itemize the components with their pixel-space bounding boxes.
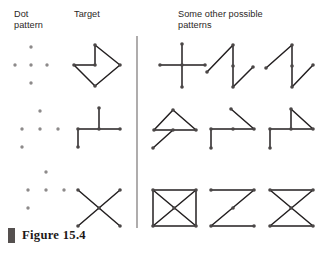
z-shape-pattern xyxy=(209,188,256,228)
boxed-x-pattern-vertex xyxy=(151,188,155,192)
z-shape-pattern-vertex xyxy=(252,188,256,192)
boxed-x-pattern-vertex xyxy=(194,224,198,228)
x-cross-target-vertex xyxy=(97,206,101,210)
quincunx-dot-pattern-dot xyxy=(45,63,48,66)
boxed-x-pattern-vertex xyxy=(151,224,155,228)
arrow-chevron-target-vertex xyxy=(93,63,97,67)
right-triangle-with-pole-pattern-vertex xyxy=(289,127,293,131)
quincunx-dot-pattern xyxy=(26,170,65,209)
right-triangle-with-pole-pattern-vertex xyxy=(289,107,293,111)
lightning-zigzag-pattern-vertex xyxy=(251,65,255,69)
flag-with-pole-pattern-vertex xyxy=(209,127,213,131)
arrow-chevron-target-vertex xyxy=(72,63,76,67)
quincunx-dot-pattern-dot xyxy=(29,81,32,84)
right-triangle-with-pole-pattern-vertex xyxy=(268,127,272,131)
arrow-chevron-target-vertex xyxy=(93,43,97,47)
arrow-chevron-target-vertex xyxy=(93,84,97,88)
flag-with-pole-pattern xyxy=(209,107,256,150)
crossed-zigzag-pattern-segment xyxy=(266,45,292,68)
crossed-zigzag-pattern-segment xyxy=(292,65,313,87)
quincunx-dot-pattern-dot xyxy=(56,127,59,130)
crossed-zigzag-pattern-vertex xyxy=(311,63,315,67)
quincunx-dot-pattern xyxy=(13,45,48,84)
triangle-with-tail-pattern-vertex xyxy=(152,128,156,132)
flag-with-pole-pattern-vertex xyxy=(252,127,256,131)
triangle-with-tail-pattern-vertex xyxy=(171,128,175,132)
boxed-x-pattern-vertex xyxy=(194,188,198,192)
quincunx-dot-pattern-dot xyxy=(44,170,47,173)
x-cross-target-vertex xyxy=(118,188,122,192)
z-shape-pattern-vertex xyxy=(209,224,213,228)
quincunx-dot-pattern-dot xyxy=(62,188,65,191)
crossed-zigzag-pattern-vertex xyxy=(290,85,294,89)
quincunx-dot-pattern-dot xyxy=(38,127,41,130)
tee-with-stem-target-vertex xyxy=(97,106,101,110)
tee-with-stem-target-vertex xyxy=(76,127,80,131)
bowtie-hourglass-pattern-vertex xyxy=(289,206,293,210)
row-2 xyxy=(20,106,315,150)
tee-with-stem-target-vertex xyxy=(118,127,122,131)
quincunx-dot-pattern-dot xyxy=(29,63,32,66)
boxed-x-pattern xyxy=(151,188,198,228)
triangle-with-tail-pattern-vertex xyxy=(194,128,198,132)
quincunx-dot-pattern-dot xyxy=(29,45,32,48)
quincunx-dot-pattern-dot xyxy=(38,109,41,112)
pattern-diagram-canvas xyxy=(0,0,322,259)
row-3 xyxy=(26,170,315,228)
plus-cross-pattern-vertex xyxy=(180,42,184,46)
z-shape-pattern-vertex xyxy=(252,224,256,228)
crossed-zigzag-pattern-vertex xyxy=(290,43,294,47)
arrow-chevron-target xyxy=(72,43,122,88)
quincunx-dot-pattern-dot xyxy=(20,145,23,148)
plus-cross-pattern-vertex xyxy=(203,63,207,67)
boxed-x-pattern-vertex xyxy=(172,206,176,210)
bowtie-hourglass-pattern-vertex xyxy=(311,188,315,192)
tee-with-stem-target xyxy=(76,106,122,149)
quincunx-dot-pattern xyxy=(20,109,59,148)
lightning-zigzag-pattern xyxy=(205,43,255,89)
triangle-with-tail-pattern-vertex xyxy=(171,108,175,112)
right-triangle-with-pole-pattern-segment xyxy=(291,109,313,129)
arrow-chevron-target-vertex xyxy=(118,63,122,67)
flag-with-pole-pattern-vertex xyxy=(209,146,213,150)
plus-cross-pattern-vertex xyxy=(180,85,184,89)
x-cross-target-vertex xyxy=(118,224,122,228)
quincunx-dot-pattern-dot xyxy=(44,188,47,191)
x-cross-target xyxy=(76,188,122,228)
arrow-chevron-target-path xyxy=(74,45,120,86)
lightning-zigzag-pattern-vertex xyxy=(231,85,235,89)
bowtie-hourglass-pattern-vertex xyxy=(268,224,272,228)
right-triangle-with-pole-pattern-vertex xyxy=(311,127,315,131)
quincunx-dot-pattern-dot xyxy=(26,188,29,191)
plus-cross-pattern-vertex xyxy=(158,63,162,67)
quincunx-dot-pattern-dot xyxy=(26,206,29,209)
plus-cross-pattern-vertex xyxy=(180,63,184,67)
bowtie-hourglass-pattern xyxy=(268,188,315,228)
quincunx-dot-pattern-dot xyxy=(20,127,23,130)
bowtie-hourglass-pattern-vertex xyxy=(268,188,272,192)
lightning-zigzag-pattern-segment xyxy=(207,45,233,72)
triangle-with-tail-pattern-vertex xyxy=(151,146,155,150)
flag-with-pole-pattern-segment xyxy=(231,109,254,129)
crossed-zigzag-pattern xyxy=(264,43,315,89)
row-1 xyxy=(13,42,315,89)
plus-cross-pattern xyxy=(158,42,207,89)
crossed-zigzag-pattern-vertex xyxy=(264,66,268,70)
lightning-zigzag-pattern-vertex xyxy=(205,70,209,74)
caption-label: Figure 15.4 xyxy=(22,228,86,243)
flag-with-pole-pattern-vertex xyxy=(231,127,235,131)
crossed-zigzag-pattern-vertex xyxy=(290,64,294,68)
bowtie-hourglass-pattern-vertex xyxy=(311,224,315,228)
z-shape-pattern-vertex xyxy=(209,188,213,192)
lightning-zigzag-pattern-vertex xyxy=(231,43,235,47)
caption-bar-icon xyxy=(8,228,15,243)
flag-with-pole-pattern-vertex xyxy=(229,107,233,111)
lightning-zigzag-pattern-vertex xyxy=(231,64,235,68)
lightning-zigzag-pattern-segment xyxy=(233,67,253,87)
triangle-with-tail-pattern-segment xyxy=(173,110,196,130)
z-shape-pattern-vertex xyxy=(231,206,235,210)
right-triangle-with-pole-pattern xyxy=(268,107,315,150)
tee-with-stem-target-vertex xyxy=(97,127,101,131)
figure-caption: Figure 15.4 xyxy=(8,228,86,243)
quincunx-dot-pattern-dot xyxy=(13,63,16,66)
